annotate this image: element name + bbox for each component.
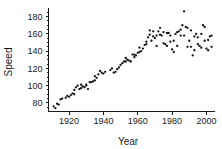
data-point xyxy=(152,30,154,32)
data-point xyxy=(190,29,192,31)
data-point xyxy=(174,33,176,35)
data-point xyxy=(200,47,202,49)
x-tick-label-1980: 1980 xyxy=(162,116,182,126)
y-tick-label-100: 100 xyxy=(27,81,42,91)
data-point xyxy=(186,27,188,29)
data-point xyxy=(83,86,85,88)
data-point xyxy=(161,34,163,36)
x-tick-label-1960: 1960 xyxy=(128,116,148,126)
data-point xyxy=(97,73,99,75)
data-point xyxy=(192,54,194,56)
data-point xyxy=(186,46,188,48)
data-point xyxy=(198,45,200,47)
data-point xyxy=(119,64,121,66)
data-point xyxy=(154,37,156,39)
data-point xyxy=(87,88,89,90)
data-point xyxy=(155,45,157,47)
data-point xyxy=(207,49,209,51)
data-point xyxy=(178,30,180,32)
data-point xyxy=(200,33,202,35)
data-point xyxy=(195,33,197,35)
data-point xyxy=(204,40,206,42)
data-point xyxy=(159,27,161,29)
y-tick-label-80: 80 xyxy=(32,98,42,108)
data-point xyxy=(94,75,96,77)
data-point xyxy=(133,56,135,58)
y-tick-label-160: 160 xyxy=(27,29,42,39)
data-point xyxy=(210,46,212,48)
data-point xyxy=(164,43,166,45)
data-point xyxy=(80,84,82,86)
data-point xyxy=(104,71,106,73)
x-tick-label-2000: 2000 xyxy=(196,116,216,126)
data-point xyxy=(111,67,113,69)
data-point xyxy=(188,40,190,42)
data-point xyxy=(116,68,118,70)
data-point xyxy=(168,32,170,34)
data-point xyxy=(202,24,204,26)
data-point xyxy=(181,24,183,26)
data-point xyxy=(155,34,157,36)
y-axis-tick-labels: 80100120140160180 xyxy=(27,12,42,108)
x-tick-label-1940: 1940 xyxy=(93,116,113,126)
data-point xyxy=(173,40,175,42)
data-point xyxy=(147,36,149,38)
data-point xyxy=(193,35,195,37)
data-point xyxy=(183,10,185,12)
y-tick-label-120: 120 xyxy=(27,64,42,74)
x-axis-tick-labels: 19201940196019802000 xyxy=(59,116,216,126)
data-point xyxy=(190,46,192,48)
scatter-chart-figure: 80100120140160180 19201940196019802000 Y… xyxy=(0,0,222,149)
data-point xyxy=(149,29,151,31)
data-point xyxy=(118,66,120,68)
data-point xyxy=(169,34,171,36)
data-point xyxy=(157,30,159,32)
data-point xyxy=(70,94,72,96)
y-axis-title: Speed xyxy=(3,48,14,77)
data-point xyxy=(145,40,147,42)
data-point xyxy=(142,47,144,49)
data-point xyxy=(102,72,104,74)
data-point xyxy=(53,105,55,107)
data-point xyxy=(180,34,182,36)
data-point xyxy=(130,60,132,62)
data-point xyxy=(197,43,199,45)
x-axis-title: Year xyxy=(118,136,139,147)
scatter-data-points xyxy=(53,10,213,109)
data-point xyxy=(125,57,127,59)
data-point xyxy=(109,69,111,71)
chart-canvas: 80100120140160180 19201940196019802000 Y… xyxy=(0,0,222,149)
data-point xyxy=(75,86,77,88)
data-point xyxy=(121,62,123,64)
data-point xyxy=(54,107,56,109)
data-point xyxy=(68,96,70,98)
data-point xyxy=(135,54,137,56)
data-point xyxy=(140,50,142,52)
x-tick-label-1920: 1920 xyxy=(59,116,79,126)
data-point xyxy=(193,49,195,51)
y-tick-label-140: 140 xyxy=(27,46,42,56)
data-point xyxy=(171,48,173,50)
data-point xyxy=(61,97,63,99)
data-point xyxy=(169,40,171,42)
data-point xyxy=(210,34,212,36)
data-point xyxy=(58,103,60,105)
data-point xyxy=(125,60,127,62)
data-point xyxy=(207,39,209,41)
data-point xyxy=(204,26,206,28)
data-point xyxy=(162,31,164,33)
data-point xyxy=(205,47,207,49)
data-point xyxy=(138,47,140,49)
data-point xyxy=(94,79,96,81)
data-point xyxy=(114,71,116,73)
data-point xyxy=(180,28,182,30)
data-point xyxy=(73,89,75,91)
data-point xyxy=(80,87,82,89)
data-point xyxy=(85,84,87,86)
data-point xyxy=(65,97,67,99)
data-point xyxy=(77,84,79,86)
data-point xyxy=(149,34,151,36)
data-point xyxy=(99,70,101,72)
data-point xyxy=(183,34,185,36)
data-point xyxy=(176,45,178,47)
